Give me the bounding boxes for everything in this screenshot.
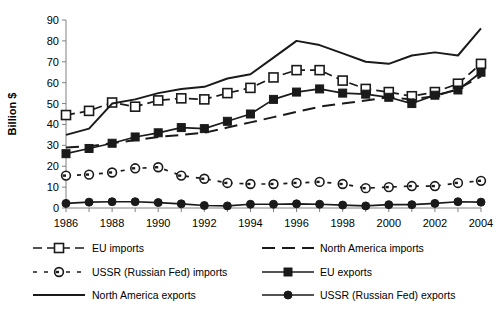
data-point: [270, 200, 278, 208]
legend-item-eu-exports[interactable]: EU exports: [262, 266, 372, 278]
data-point: [246, 110, 254, 118]
y-tick-label: 70: [47, 56, 59, 68]
data-point: [315, 66, 324, 75]
x-tick-label: 1996: [284, 217, 308, 229]
data-point: [177, 124, 185, 132]
x-tick-label: 1992: [192, 217, 216, 229]
data-point: [154, 199, 162, 207]
y-tick-label: 30: [47, 139, 59, 151]
legend-item-ussr-russian-fed-imports[interactable]: USSR (Russian Fed) imports: [33, 266, 227, 278]
y-tick-label: 10: [47, 181, 59, 193]
data-point: [246, 83, 255, 92]
legend-label: North America imports: [320, 242, 424, 254]
data-point: [385, 201, 393, 209]
y-tick-label: 60: [47, 77, 59, 89]
data-point: [316, 85, 324, 93]
data-point: [62, 111, 71, 120]
y-tick-label: 80: [47, 35, 59, 47]
x-tick-label: 1998: [330, 217, 354, 229]
data-point: [339, 201, 347, 209]
y-axis-title: Billion $: [6, 93, 18, 136]
x-tick-label: 2000: [377, 217, 401, 229]
chart-container: 0102030405060708090198619881990199219941…: [0, 0, 501, 311]
data-point: [177, 200, 185, 208]
legend-label: USSR (Russian Fed) imports: [92, 266, 227, 278]
data-point: [200, 125, 208, 133]
data-point: [62, 199, 70, 207]
data-point: [338, 76, 347, 85]
data-point: [200, 95, 209, 104]
data-point: [200, 201, 208, 209]
legend-item-eu-imports[interactable]: EU imports: [33, 242, 144, 254]
legend-item-north-america-exports[interactable]: North America exports: [33, 289, 196, 301]
data-point: [431, 91, 439, 99]
x-tick-label: 2004: [469, 217, 493, 229]
axes-group: 0102030405060708090198619881990199219941…: [47, 14, 493, 229]
legend: EU importsNorth America importsUSSR (Rus…: [33, 242, 455, 301]
data-point: [477, 198, 485, 206]
y-tick-label: 50: [47, 98, 59, 110]
data-point: [362, 202, 370, 210]
x-tick-label: 1988: [100, 217, 124, 229]
data-point: [223, 117, 231, 125]
data-point: [85, 144, 93, 152]
legend-item-ussr-russian-fed-exports[interactable]: USSR (Russian Fed) exports: [262, 289, 455, 301]
data-point: [316, 200, 324, 208]
legend-swatch-marker: [55, 244, 64, 253]
series-eu-imports: [62, 59, 486, 119]
series-ussr-russian-fed-imports: [62, 163, 486, 193]
series-line: [66, 64, 481, 115]
x-tick-label: 1986: [54, 217, 78, 229]
data-point: [339, 89, 347, 97]
data-point: [177, 94, 186, 103]
data-point: [85, 106, 94, 115]
data-point: [154, 129, 162, 137]
data-point: [408, 201, 416, 209]
legend-label: EU exports: [320, 266, 372, 278]
data-point: [385, 93, 393, 101]
y-tick-label: 0: [53, 202, 59, 214]
x-tick-label: 1990: [146, 217, 170, 229]
y-tick-label: 90: [47, 14, 59, 26]
data-point: [269, 73, 278, 82]
data-point: [62, 150, 70, 158]
data-point: [131, 102, 140, 111]
series-line: [66, 76, 481, 147]
data-point: [246, 200, 254, 208]
data-point: [293, 200, 301, 208]
data-point: [477, 68, 485, 76]
legend-swatch-marker: [284, 291, 292, 299]
data-point: [431, 199, 439, 207]
series-north-america-imports: [66, 76, 481, 147]
legend-label: North America exports: [92, 289, 196, 301]
legend-label: USSR (Russian Fed) exports: [320, 289, 455, 301]
y-tick-label: 20: [47, 160, 59, 172]
line-chart: 0102030405060708090198619881990199219941…: [0, 0, 501, 311]
x-tick-label: 2002: [423, 217, 447, 229]
data-point: [362, 90, 370, 98]
data-point: [293, 88, 301, 96]
data-point: [270, 95, 278, 103]
data-point: [223, 89, 232, 98]
data-point: [131, 198, 139, 206]
data-point: [454, 86, 462, 94]
legend-label: EU imports: [92, 242, 144, 254]
data-point: [477, 59, 486, 68]
data-point: [108, 198, 116, 206]
data-point: [131, 133, 139, 141]
data-point: [223, 202, 231, 210]
x-tick-label: 1994: [238, 217, 262, 229]
legend-item-north-america-imports[interactable]: North America imports: [262, 242, 424, 254]
data-point: [292, 66, 301, 75]
data-point: [85, 198, 93, 206]
data-point: [154, 96, 163, 105]
data-point: [108, 139, 116, 147]
legend-swatch-marker: [284, 268, 292, 276]
data-point: [454, 198, 462, 206]
data-point: [408, 100, 416, 108]
y-tick-label: 40: [47, 118, 59, 130]
